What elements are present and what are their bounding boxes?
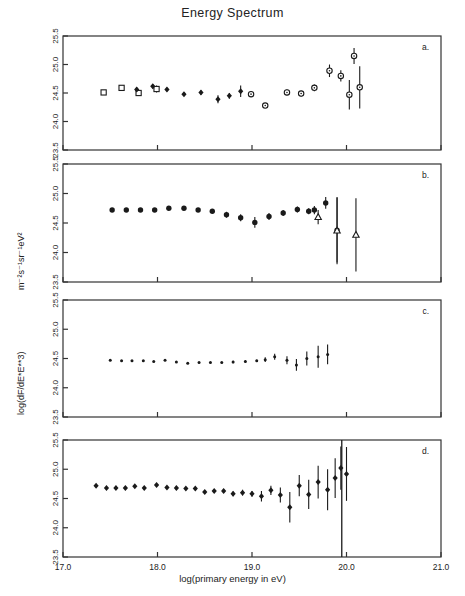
marker-filled-diamond — [227, 93, 232, 99]
y-axis-main-label: log(dF/dE*E**3) — [16, 351, 26, 415]
y-tick-label: 24.0 — [51, 244, 60, 260]
series-filled-circle — [109, 197, 339, 262]
marker-filled-diamond — [164, 484, 169, 490]
marker-open-circle-center — [264, 105, 266, 107]
x-tick-label: 20.0 — [338, 562, 355, 572]
marker-open-circle-center — [300, 93, 302, 95]
panel-label: b. — [422, 170, 429, 180]
marker-filled-diamond — [113, 485, 118, 491]
marker-open-circle-center — [250, 93, 252, 95]
marker-filled-diamond — [93, 483, 98, 489]
y-tick-label: 25.5 — [51, 156, 60, 172]
panel-frame — [63, 164, 441, 282]
marker-open-circle-center — [314, 87, 316, 89]
y-tick-label: 23.5 — [51, 409, 60, 425]
marker-small-filled-circle — [175, 361, 178, 364]
panel-a: 23.524.024.525.025.5a. — [51, 28, 441, 158]
marker-filled-diamond — [316, 479, 321, 485]
marker-filled-diamond — [142, 485, 147, 491]
marker-open-circle-center — [329, 70, 331, 72]
y-tick-label: 24.5 — [51, 215, 60, 231]
marker-small-filled-circle — [285, 359, 288, 362]
x-tick-label: 21.0 — [433, 562, 450, 572]
marker-filled-circle — [280, 210, 285, 215]
marker-filled-circle — [224, 212, 229, 217]
marker-filled-circle — [252, 220, 257, 225]
marker-filled-diamond — [154, 482, 159, 488]
marker-small-filled-circle — [209, 361, 212, 364]
figure-title: Energy Spectrum — [0, 6, 465, 20]
panel-label: a. — [422, 42, 429, 52]
marker-small-filled-circle — [109, 359, 112, 362]
marker-filled-diamond — [344, 471, 349, 477]
x-axis-label: log(primary energy in eV) — [0, 573, 465, 584]
panel-d: 23.524.024.525.025.517.018.019.020.021.0… — [51, 432, 449, 572]
marker-open-circle-center — [340, 75, 342, 77]
marker-filled-diamond — [202, 489, 207, 495]
y-tick-label: 25.0 — [51, 185, 60, 201]
marker-small-filled-circle — [152, 360, 155, 363]
series-open-circle — [248, 48, 362, 110]
marker-filled-diamond — [287, 504, 292, 510]
marker-open-square — [154, 86, 159, 91]
panel-c: 23.524.024.525.025.5c. — [51, 292, 441, 425]
marker-filled-diamond — [132, 483, 137, 489]
panel-label: d. — [422, 446, 429, 456]
marker-open-circle-center — [349, 94, 351, 96]
y-tick-label: 25.0 — [51, 461, 60, 477]
series-open-square — [101, 85, 159, 96]
series-filled-diamond — [134, 83, 243, 103]
marker-filled-diamond — [198, 89, 203, 95]
panel-label: c. — [422, 306, 429, 316]
marker-filled-diamond — [181, 91, 186, 97]
marker-small-filled-circle — [220, 361, 223, 364]
marker-small-filled-circle — [120, 359, 123, 362]
marker-filled-circle — [152, 207, 157, 212]
marker-filled-diamond — [249, 491, 254, 497]
marker-filled-diamond — [297, 483, 302, 489]
marker-filled-diamond — [174, 485, 179, 491]
panel-frame — [63, 440, 441, 557]
marker-filled-circle — [138, 207, 143, 212]
marker-filled-diamond — [238, 88, 243, 94]
y-tick-label: 25.0 — [51, 56, 60, 72]
marker-open-triangle — [353, 231, 359, 237]
y-tick-label: 25.5 — [51, 432, 60, 448]
marker-filled-diamond — [338, 465, 343, 471]
marker-filled-diamond — [306, 491, 311, 497]
y-tick-label: 25.5 — [51, 292, 60, 308]
marker-filled-circle — [181, 206, 186, 211]
marker-small-filled-circle — [305, 357, 308, 360]
y-tick-label: 25.0 — [51, 321, 60, 337]
y-tick-label: 23.5 — [51, 142, 60, 158]
panel-b: 23.524.024.525.025.5b. — [51, 156, 441, 290]
marker-filled-circle — [306, 209, 311, 214]
marker-filled-circle — [124, 207, 129, 212]
marker-filled-diamond — [259, 493, 264, 499]
marker-filled-diamond — [104, 485, 109, 491]
marker-small-filled-circle — [295, 363, 298, 366]
marker-filled-circle — [238, 215, 243, 220]
y-tick-label: 23.5 — [51, 274, 60, 290]
marker-small-filled-circle — [164, 359, 167, 362]
marker-filled-diamond — [333, 475, 338, 481]
series-filled-diamond — [93, 446, 349, 522]
marker-filled-circle — [323, 200, 328, 205]
y-axis-units-label: m⁻²s⁻¹sr⁻¹eV² — [16, 233, 26, 291]
marker-small-filled-circle — [142, 359, 145, 362]
marker-filled-circle — [210, 209, 215, 214]
marker-filled-diamond — [212, 488, 217, 494]
marker-filled-diamond — [183, 486, 188, 492]
figure-root: Energy Spectrum m⁻²s⁻¹sr⁻¹eV² log(dF/dE*… — [0, 0, 465, 596]
y-tick-label: 24.5 — [51, 85, 60, 101]
x-tick-label: 19.0 — [244, 562, 261, 572]
marker-filled-circle — [195, 207, 200, 212]
y-tick-label: 24.5 — [51, 350, 60, 366]
panel-frame — [63, 300, 441, 417]
marker-filled-circle — [109, 207, 114, 212]
marker-small-filled-circle — [273, 355, 276, 358]
marker-filled-diamond — [268, 487, 273, 493]
marker-small-filled-circle — [326, 353, 329, 356]
x-tick-label: 18.0 — [149, 562, 166, 572]
y-tick-label: 24.0 — [51, 113, 60, 129]
